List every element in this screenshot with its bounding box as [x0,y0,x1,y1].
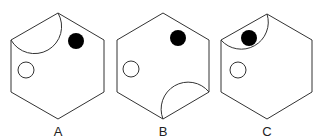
hollow-circle-a [18,62,34,78]
semicircle-a [11,13,62,54]
label-b: B [159,124,168,139]
semicircle-b [161,82,209,119]
filled-circle-b [170,30,186,46]
label-c: C [262,124,271,139]
option-c: C [221,14,312,139]
label-a: A [54,124,63,139]
filled-circle-c [241,30,257,46]
hollow-circle-b [123,61,139,77]
option-a: A [11,13,104,139]
option-b: B [117,13,209,139]
hexagon-options-figure: A B C [0,0,327,140]
filled-circle-a [68,33,84,49]
hollow-circle-c [230,62,246,78]
